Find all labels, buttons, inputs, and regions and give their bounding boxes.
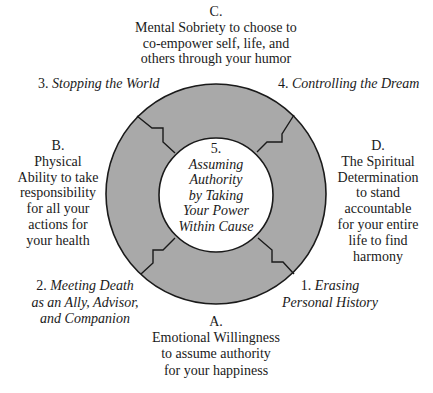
quality-a: A. Emotional Willingness to assume autho… [136, 314, 296, 379]
quality-b: B. Physical Ability to take responsibili… [8, 138, 108, 249]
center-number: 5. [166, 141, 266, 157]
quality-a-line: for your happiness [136, 363, 296, 379]
quality-b-line: your health [8, 233, 108, 249]
stage-4-title: Controlling the Dream [292, 76, 419, 91]
stage-2-label: 2. Meeting Death as an Ally, Advisor, an… [25, 278, 145, 328]
quality-d-line: The Spiritual [326, 154, 430, 170]
quality-b-letter: B. [8, 138, 108, 154]
quality-a-letter: A. [136, 314, 296, 330]
quality-d-line: accountable [326, 201, 430, 217]
stage-2-line: and Companion [25, 311, 145, 328]
quality-b-line: responsibility [8, 185, 108, 201]
center-line: Your Power [166, 203, 266, 219]
quality-c: C. Mental Sobriety to choose to co-empow… [116, 4, 316, 67]
center-line: Within Cause [166, 219, 266, 235]
quality-b-line: for all your [8, 201, 108, 217]
quality-d-line: for your entire [326, 217, 430, 233]
stage-2-line: Meeting Death [50, 278, 134, 293]
quality-b-line: Physical [8, 154, 108, 170]
stage-4-label: 4. Controlling the Dream [278, 76, 419, 93]
quality-d-line: to stand [326, 185, 430, 201]
quality-a-line: Emotional Willingness [136, 330, 296, 346]
quality-d-line: harmony [326, 249, 430, 265]
stage-1-label: 1. Erasing Personal History [275, 278, 385, 311]
quality-d-letter: D. [326, 138, 430, 154]
stage-3-title: Stopping the World [52, 76, 160, 91]
stage-1-number: 1. [301, 278, 312, 293]
quality-d-line: life to find [326, 233, 430, 249]
quality-c-line: others through your humor [116, 51, 316, 67]
center-line: by Taking [166, 188, 266, 204]
stage-3-number: 3. [38, 76, 49, 91]
quality-c-line: co-empower self, life, and [116, 36, 316, 52]
quality-b-line: actions for [8, 217, 108, 233]
stage-1-line: Personal History [275, 295, 385, 312]
stage-4-number: 4. [278, 76, 289, 91]
quality-d-line: Determination [326, 170, 430, 186]
stage-2-number: 2. [36, 278, 47, 293]
stage-3-label: 3. Stopping the World [38, 76, 160, 93]
center-line: Authority [166, 172, 266, 188]
quality-d: D. The Spiritual Determination to stand … [326, 138, 430, 264]
quality-c-line: Mental Sobriety to choose to [116, 20, 316, 36]
stage-1-line: Erasing [315, 278, 359, 293]
quality-b-line: Ability to take [8, 170, 108, 186]
quality-c-letter: C. [116, 4, 316, 20]
center-stage-5: 5. Assuming Authority by Taking Your Pow… [166, 141, 266, 234]
stage-2-line: as an Ally, Advisor, [25, 295, 145, 312]
quality-a-line: to assume authority [136, 346, 296, 362]
center-line: Assuming [166, 157, 266, 173]
